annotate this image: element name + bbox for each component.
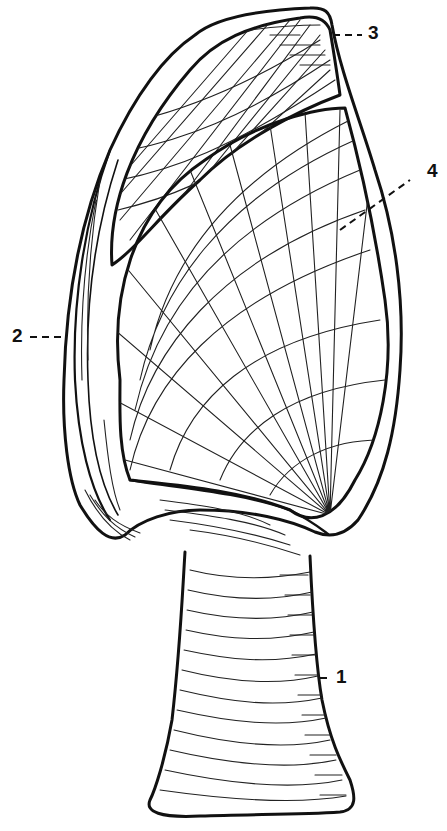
- stalk-annulations: [160, 570, 346, 800]
- label-3: 3: [368, 23, 379, 42]
- leader-line-4: [340, 180, 410, 230]
- label-4: 4: [427, 161, 438, 180]
- tergum-plate: [112, 17, 340, 265]
- scutum-plate: [115, 108, 388, 518]
- peduncle-stalk: [149, 552, 354, 816]
- label-1: 1: [336, 667, 347, 686]
- label-2: 2: [12, 326, 23, 345]
- barnacle-illustration: [0, 0, 447, 831]
